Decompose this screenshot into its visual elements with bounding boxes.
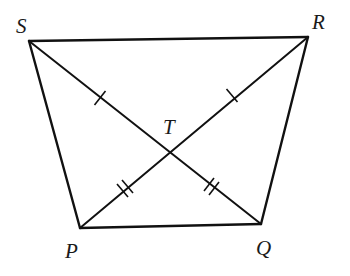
quadrilateral-diagram: S R P Q T (0, 0, 350, 276)
diagonal-SQ (29, 41, 261, 224)
vertex-label-P: P (64, 239, 78, 263)
vertex-label-R: R (311, 10, 325, 34)
side-PS (29, 41, 80, 228)
side-RQ (261, 37, 308, 224)
side-QP (80, 224, 261, 228)
intersection-label-T: T (163, 115, 176, 139)
side-SR (29, 37, 308, 41)
diagonal-PR (80, 37, 308, 228)
vertex-label-S: S (16, 14, 27, 38)
vertex-label-Q: Q (256, 236, 271, 260)
